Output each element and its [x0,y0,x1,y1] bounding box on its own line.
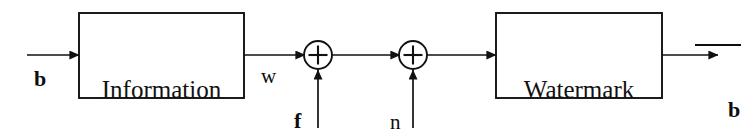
signal-label-b-hat: b [673,17,740,139]
signal-label-n: n [390,110,401,135]
block-diagram: Information Coding Watermark decoding b … [0,0,754,139]
signal-label-b: b [34,66,46,92]
signal-label-w: w [261,64,276,89]
signal-label-b-hat-text: b [728,97,740,122]
block-watermark-decoding-line1: Watermark [496,76,662,103]
block-information-coding-label: Information Coding [79,22,244,139]
block-information-coding-line1: Information [79,76,244,103]
overbar-group: b [695,43,740,139]
signal-label-f: f [294,108,301,134]
block-watermark-decoding-label: Watermark decoding [496,22,662,139]
overbar-line [695,44,741,46]
